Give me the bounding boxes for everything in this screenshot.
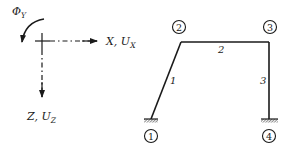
rotation-label: ΦY [12,5,27,20]
node-1: 1 [145,130,158,143]
fixed-support-icon [261,119,278,123]
member-label-1: 1 [170,75,176,86]
member-1 [151,42,181,119]
node-2: 2 [173,21,186,34]
frame-diagram: ΦY X, UX Z, UZ 1 2 3 [0,0,295,158]
member-label-3: 3 [260,75,266,86]
rotation-arrow-icon [22,19,44,42]
svg-text:3: 3 [267,22,273,33]
x-axis-label: X, UX [105,35,136,50]
member-label-2: 2 [217,44,224,55]
frame: 1 2 3 [151,42,269,119]
fixed-support-icon [144,119,158,123]
coordinate-system: ΦY X, UX Z, UZ [12,5,136,125]
z-axis-label: Z, UZ [26,110,57,125]
supports [144,119,278,123]
node-3: 3 [264,21,277,34]
svg-text:1: 1 [148,131,154,142]
svg-text:2: 2 [176,22,182,33]
node-4: 4 [263,130,276,143]
node-markers: 1 2 3 4 [145,21,277,143]
svg-text:4: 4 [266,131,272,142]
